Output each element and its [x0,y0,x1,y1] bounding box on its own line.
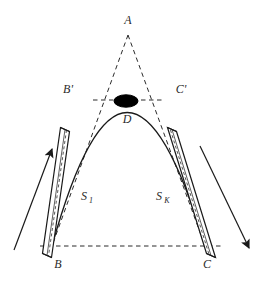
label-s1-base: S [81,189,87,203]
label-apex-a: A [123,13,132,27]
label-s1-subscript: 1 [89,196,93,205]
figure-canvas: A B' C' D B C S 1 S K [0,0,268,301]
geometry-figure: A B' C' D B C S 1 S K [0,0,268,301]
label-d: D [122,112,132,126]
label-sk-subscript: K [163,196,170,205]
mass-ellipse-d [114,95,138,107]
background [0,0,268,301]
label-b: B [54,257,62,271]
label-b-prime: B' [63,82,73,96]
label-c: C [203,257,212,271]
label-c-prime: C' [176,82,187,96]
label-sk-base: S [156,189,162,203]
